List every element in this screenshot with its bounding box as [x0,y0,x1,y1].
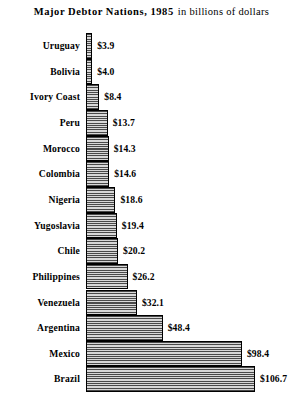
category-label: Peru [0,110,80,136]
bar-container [86,213,117,239]
bar [86,187,115,213]
bar-chart-plot-area: Uruguay$3.9Bolivia$4.0Ivory Coast$8.4Per… [0,33,303,393]
bar-container [86,59,92,85]
category-label: Venezuela [0,290,80,316]
bar-container [86,84,99,110]
bar [86,110,108,136]
category-label: Ivory Coast [0,84,80,110]
page-title: Major Debtor Nations, 1985in billions of… [0,5,303,19]
bar-row: Philippines$26.2 [0,264,303,290]
bar [86,136,109,162]
bar-container [86,161,109,187]
bar-row: Chile$20.2 [0,238,303,264]
bar-value-label: $106.7 [260,366,287,392]
bar-value-label: $98.4 [247,341,269,367]
bar-container [86,315,163,341]
category-label: Bolivia [0,59,80,85]
category-label: Nigeria [0,187,80,213]
bar-value-label: $14.6 [114,161,136,187]
bar-row: Peru$13.7 [0,110,303,136]
bar-row: Brazil$106.7 [0,366,303,392]
bar [86,213,117,239]
bar-row: Bolivia$4.0 [0,59,303,85]
bar-row: Uruguay$3.9 [0,33,303,59]
bar-row: Colombia$14.6 [0,161,303,187]
bar [86,84,99,110]
bar-container [86,238,118,264]
category-label: Morocco [0,136,80,162]
category-label: Colombia [0,161,80,187]
bar-value-label: $20.2 [123,238,145,264]
bar-container [86,290,137,316]
bar-container [86,264,128,290]
bar [86,264,128,290]
bar-container [86,187,115,213]
bar-row: Yugoslavia$19.4 [0,213,303,239]
bar-container [86,110,108,136]
category-label: Mexico [0,341,80,367]
bar-container [86,33,92,59]
bar-value-label: $19.4 [122,213,144,239]
bar [86,59,92,85]
bar-value-label: $4.0 [97,59,114,85]
chart-title-subtitle: in billions of dollars [178,6,269,17]
bar-row: Morocco$14.3 [0,136,303,162]
category-label: Yugoslavia [0,213,80,239]
bar-value-label: $32.1 [142,290,164,316]
bar-value-label: $26.2 [133,264,155,290]
category-label: Brazil [0,366,80,392]
bar-value-label: $14.3 [114,136,136,162]
bar-value-label: $8.4 [104,84,121,110]
bar [86,341,242,367]
bar-row: Mexico$98.4 [0,341,303,367]
bar [86,238,118,264]
bar-row: Ivory Coast$8.4 [0,84,303,110]
bar [86,315,163,341]
bar [86,161,109,187]
category-label: Chile [0,238,80,264]
category-label: Philippines [0,264,80,290]
bar-row: Nigeria$18.6 [0,187,303,213]
bar-container [86,136,109,162]
bar-row: Argentina$48.4 [0,315,303,341]
chart-title-main: Major Debtor Nations, 1985 [34,6,174,17]
bar [86,366,255,392]
bar-value-label: $48.4 [168,315,190,341]
bar-container [86,341,242,367]
category-label: Uruguay [0,33,80,59]
bar-value-label: $3.9 [97,33,114,59]
bar-value-label: $13.7 [113,110,135,136]
bar-container [86,366,255,392]
bar-value-label: $18.6 [120,187,142,213]
bar-row: Venezuela$32.1 [0,290,303,316]
bar [86,290,137,316]
category-label: Argentina [0,315,80,341]
bar [86,33,92,59]
